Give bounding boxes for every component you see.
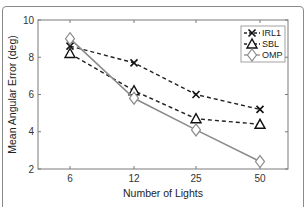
x-tick-label: 12 xyxy=(128,173,140,184)
series-layer xyxy=(65,33,265,168)
data-point xyxy=(191,114,201,123)
data-point xyxy=(193,91,200,98)
y-axis-label: Mean Angular Error (deg) xyxy=(6,35,18,153)
x-tick-label: 25 xyxy=(190,173,202,184)
data-point xyxy=(65,49,75,58)
series-line xyxy=(70,39,260,162)
x-axis-label: Number of Lights xyxy=(123,187,203,199)
y-tick-label: 2 xyxy=(28,164,34,175)
y-tick-label: 10 xyxy=(23,15,35,26)
line-chart: 2468106122550 IRL1SBLOMP Number of Light… xyxy=(0,0,306,207)
legend-label: OMP xyxy=(262,50,283,60)
legend-label: IRL1 xyxy=(262,28,281,38)
data-point xyxy=(255,119,265,128)
y-tick-label: 6 xyxy=(28,89,34,100)
y-tick-label: 8 xyxy=(28,52,34,63)
data-point xyxy=(192,124,201,136)
y-tick-label: 4 xyxy=(28,126,34,137)
legend-label: SBL xyxy=(262,39,279,49)
data-point xyxy=(256,156,265,168)
legend-item-irl1: IRL1 xyxy=(244,28,281,38)
series-irl1 xyxy=(67,43,264,113)
series-omp xyxy=(66,33,265,168)
x-tick-label: 50 xyxy=(254,173,266,184)
series-sbl xyxy=(65,49,265,129)
x-tick-label: 6 xyxy=(67,173,73,184)
series-line xyxy=(70,46,260,109)
legend: IRL1SBLOMP xyxy=(241,26,285,62)
